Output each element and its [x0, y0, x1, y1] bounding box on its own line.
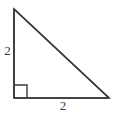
horizontal-leg-label: 2 — [55, 99, 71, 112]
triangle-drawing — [0, 0, 115, 115]
vertical-leg-label: 2 — [2, 44, 13, 57]
right-triangle-figure: 2 2 — [0, 0, 115, 115]
hypotenuse-line — [14, 9, 109, 98]
right-angle-marker-icon — [14, 85, 27, 98]
